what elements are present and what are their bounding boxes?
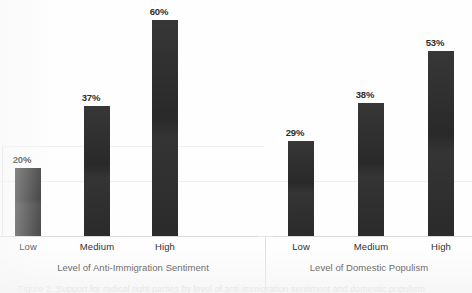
category-axis-line — [266, 236, 472, 237]
figure-caption-cropped: Figure 2. Support for radical right part… — [18, 285, 458, 293]
x-axis-title: Level of Anti-Immigration Sentiment — [0, 262, 266, 273]
category-axis-line — [0, 236, 266, 237]
bar-value-label: 29% — [275, 127, 315, 138]
chart-panel-anti-immigration-sentiment: 20% 37% 60% Low Medium High Level of Ant… — [0, 0, 266, 293]
bar-value-label: 38% — [345, 89, 385, 100]
bar-value-label: 20% — [2, 154, 42, 165]
bar-low[interactable] — [15, 168, 41, 236]
x-axis-title: Level of Domestic Populism — [266, 262, 472, 273]
figure-caption-text: Figure 2. Support for radical right part… — [18, 285, 458, 293]
figure-container: 20% 37% 60% Low Medium High Level of Ant… — [0, 0, 472, 293]
bar-high[interactable] — [152, 20, 178, 236]
category-label-medium: Medium — [344, 241, 398, 252]
bar-value-label: 37% — [71, 92, 111, 103]
panel-divider — [265, 236, 266, 288]
plot-area-top-border — [2, 146, 264, 147]
category-label-low: Low — [274, 241, 328, 252]
category-label-medium: Medium — [70, 241, 124, 252]
category-label-low: Low — [1, 241, 55, 252]
bar-low[interactable] — [288, 141, 314, 236]
bar-value-label: 60% — [139, 6, 179, 17]
category-label-high: High — [414, 241, 468, 252]
category-label-high: High — [138, 241, 192, 252]
bar-medium[interactable] — [358, 103, 384, 236]
bar-high[interactable] — [428, 51, 454, 236]
bar-medium[interactable] — [84, 106, 110, 236]
bar-value-label: 53% — [415, 37, 455, 48]
